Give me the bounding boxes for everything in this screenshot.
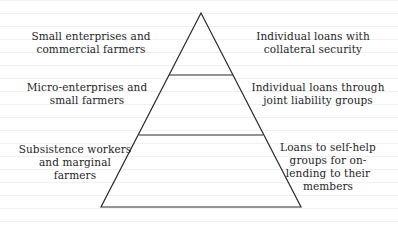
text-line: Individual loans through xyxy=(251,81,385,94)
text-line: Micro-enterprises and xyxy=(22,81,152,94)
client-label-top: Small enterprises and commercial farmers xyxy=(28,30,154,56)
client-label-bottom: Subsistence workers and marginal farmers xyxy=(18,143,132,182)
loan-label-top: Individual loans with collateral securit… xyxy=(253,30,373,56)
text-line: small farmers xyxy=(22,94,152,107)
client-label-middle: Micro-enterprises and small farmers xyxy=(22,81,152,107)
text-line: collateral security xyxy=(253,43,373,56)
text-line: joint liability groups xyxy=(251,94,385,107)
loan-label-bottom: Loans to self-help groups for on- lendin… xyxy=(276,141,380,193)
text-line: Loans to self-help xyxy=(276,141,380,154)
text-line: Subsistence workers xyxy=(18,143,132,156)
text-line: Individual loans with xyxy=(253,30,373,43)
text-line: lending to their xyxy=(276,167,380,180)
text-line: and marginal xyxy=(18,156,132,169)
text-line: Small enterprises and xyxy=(28,30,154,43)
text-line: commercial farmers xyxy=(28,43,154,56)
loan-label-middle: Individual loans through joint liability… xyxy=(251,81,385,107)
text-line: farmers xyxy=(18,169,132,182)
text-line: members xyxy=(276,180,380,193)
text-line: groups for on- xyxy=(276,154,380,167)
